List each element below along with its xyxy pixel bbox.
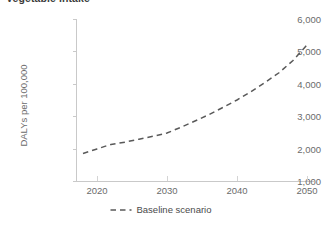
legend-label-baseline-scenario: Baseline scenario xyxy=(137,204,212,215)
legend-marker-dashed-line xyxy=(110,206,132,214)
chart-legend: Baseline scenario xyxy=(0,204,321,215)
series-line-baseline-scenario xyxy=(83,45,307,154)
